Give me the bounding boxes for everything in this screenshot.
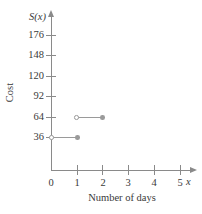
open-endpoint-marker [49,135,54,140]
x-tick-mark [102,165,103,175]
step-function-chart: S(x) x 176 148 120 92 64 36 0 1 2 3 4 5 … [0,0,202,214]
open-endpoint-marker [74,115,79,120]
x-tick-label: 4 [144,178,164,189]
x-tick-label: 5 [170,178,190,189]
x-tick-mark [180,165,181,175]
x-axis-line [51,170,193,171]
y-tick-mark [46,55,56,56]
y-axis-title: Cost [4,71,15,115]
y-axis-line [51,16,52,171]
x-axis-title: Number of days [51,192,193,203]
x-tick-mark [154,165,155,175]
x-axis-arrow-icon [190,167,197,173]
y-tick-mark [46,35,56,36]
y-tick-mark [46,117,56,118]
y-tick-mark [46,96,56,97]
y-tick-label: 36 [4,132,44,143]
x-tick-label: 1 [67,178,87,189]
closed-endpoint-marker [75,135,80,140]
x-tick-label: 0 [41,178,61,189]
closed-endpoint-marker [100,115,105,120]
x-tick-label: 3 [118,178,138,189]
y-tick-label: 176 [4,30,44,41]
x-tick-mark [128,165,129,175]
x-tick-mark [77,165,78,175]
step-segment-1 [52,137,77,138]
y-tick-mark [46,76,56,77]
y-tick-label: 148 [4,50,44,61]
y-axis-arrow-icon [48,10,54,17]
x-tick-label: 2 [93,178,113,189]
y-axis-symbol-label: S(x) [29,11,46,22]
